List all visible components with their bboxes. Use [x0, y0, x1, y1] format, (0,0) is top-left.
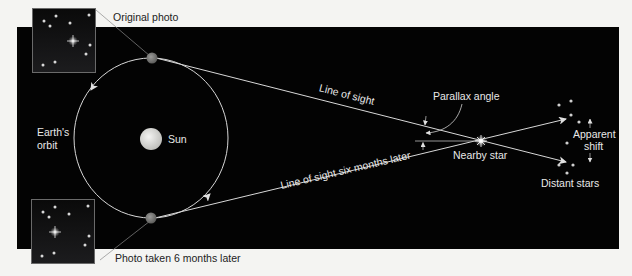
photo-later-label: Photo taken 6 months later: [115, 252, 241, 264]
star-field-later: [32, 200, 94, 263]
nearby-star-label: Nearby star: [453, 149, 507, 161]
line-of-sight: [156, 58, 566, 162]
later-photo-inset: [31, 199, 95, 264]
parallax-curved-pointer: [426, 104, 462, 133]
sun-label: Sun: [168, 133, 187, 145]
original-photo-inset: [32, 8, 96, 73]
sun-icon: [140, 128, 162, 150]
earth-original-icon: [147, 53, 158, 64]
original-photo-label: Original photo: [113, 11, 178, 23]
earths-orbit-label-line1: Earth's: [37, 126, 69, 138]
distant-stars-label: Distant stars: [541, 177, 599, 189]
apparent-shift-label-line2: shift: [584, 140, 603, 152]
apparent-shift-label-line1: Apparent: [573, 128, 616, 140]
earth-later-icon: [146, 213, 157, 224]
star-field-original: [33, 9, 95, 72]
parallax-angle-label: Parallax angle: [433, 90, 500, 102]
parallax-tick-top: [425, 116, 426, 125]
earths-orbit-label-line2: orbit: [37, 139, 57, 151]
